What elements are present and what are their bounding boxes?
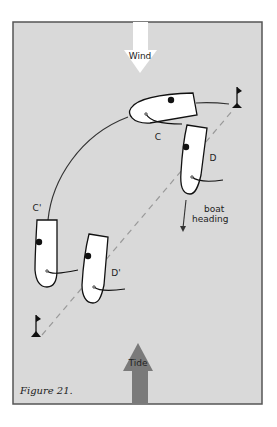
crew-dot xyxy=(85,253,91,259)
crew-dot xyxy=(168,97,174,103)
tide-label: Tide xyxy=(128,358,148,368)
boat-heading-label-2: heading xyxy=(192,214,228,224)
boat-heading-label-1: boat xyxy=(204,204,225,214)
crew-dot xyxy=(183,144,189,150)
boat-d-prime-label: D' xyxy=(111,268,120,278)
figure-21-diagram: Wind Tide C D boat h xyxy=(0,0,277,427)
boat-d-label: D xyxy=(210,153,217,163)
crew-dot xyxy=(36,239,42,245)
boat-c-prime-label: C' xyxy=(33,203,42,213)
figure-caption: Figure 21. xyxy=(19,385,73,396)
wind-label: Wind xyxy=(129,51,152,61)
boat-c-label: C xyxy=(155,132,161,142)
